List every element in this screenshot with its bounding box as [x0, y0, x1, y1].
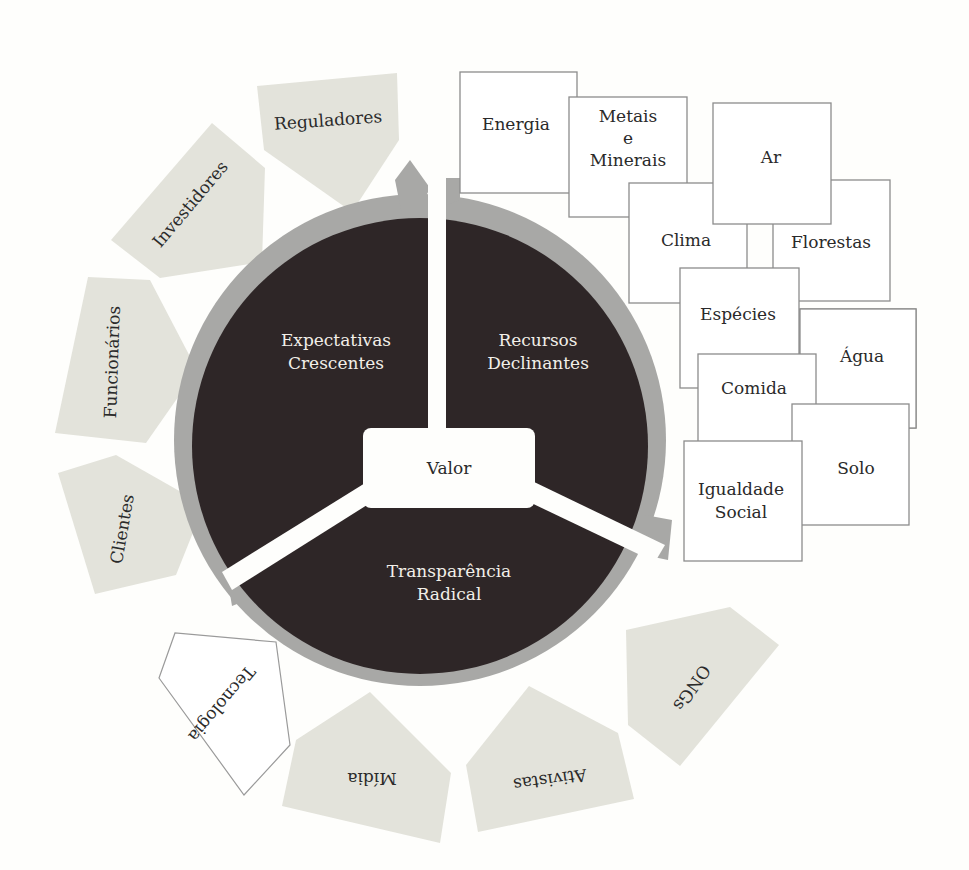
resource-label: Clima	[661, 230, 711, 250]
center-value-box: Valor	[363, 428, 535, 508]
resource-energia: Energia	[460, 72, 577, 193]
stakeholder-investidores: Investidores	[111, 123, 265, 278]
center-label: Valor	[426, 458, 473, 478]
resource-label: Energia	[482, 114, 550, 134]
stakeholder-midia: Mídia	[282, 692, 451, 843]
stakeholder-tecnologia: Tecnologia	[159, 633, 290, 795]
resource-label: Solo	[837, 458, 875, 478]
resource-ar: Ar	[713, 103, 831, 224]
stakeholder-ongs: ONGs	[626, 607, 779, 766]
resource-label: Comida	[721, 378, 787, 398]
resource-label: Igualdade	[698, 479, 784, 499]
segment-label-line2: Radical	[417, 584, 482, 604]
stakeholder-label: Funcionários	[100, 305, 124, 418]
value-diagram: Reguladores Investidores Funcionários Cl…	[0, 0, 969, 870]
segment-label-line1: Expectativas	[281, 330, 391, 350]
resource-igualdade-social: Igualdade Social	[684, 441, 802, 561]
stakeholder-label: Mídia	[347, 769, 396, 789]
resource-label: Ar	[760, 147, 782, 167]
resource-label: Água	[839, 346, 884, 366]
resource-label: Social	[715, 502, 767, 522]
resource-label: Minerais	[590, 150, 666, 170]
segment-label-line1: Recursos	[498, 330, 577, 350]
segment-label-line1: Transparência	[387, 561, 512, 581]
resource-label: Florestas	[791, 232, 871, 252]
resource-solo: Solo	[792, 404, 909, 525]
stakeholder-reguladores: Reguladores	[257, 73, 399, 212]
segment-label-line2: Declinantes	[487, 353, 589, 373]
resource-label: Espécies	[700, 304, 776, 324]
segment-label-line2: Crescentes	[288, 353, 384, 373]
resource-label: e	[623, 128, 633, 148]
stakeholder-ativistas: Ativistas	[466, 686, 634, 832]
resource-label: Metais	[599, 106, 658, 126]
